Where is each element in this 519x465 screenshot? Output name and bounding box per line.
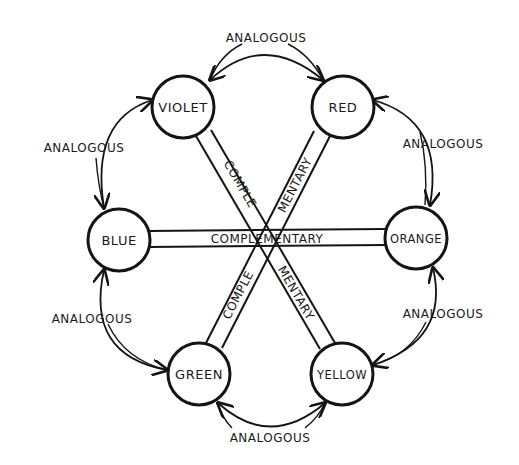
analogous-label-left-lower: ANALOGOUS (52, 312, 133, 326)
node-orange: ORANGE (385, 207, 447, 269)
analogous-arrow-blue-violet: ANALOGOUS (44, 100, 152, 208)
complementary-label-red-green-lower: COMPLE (220, 268, 257, 321)
analogous-arrow-orange-yellow: ANALOGOUS (373, 268, 483, 365)
node-label-orange: ORANGE (390, 232, 442, 246)
analogous-arrow-violet-red: ANALOGOUS (210, 31, 323, 80)
analogous-label-right-lower: ANALOGOUS (403, 307, 484, 321)
node-green: GREEN (168, 343, 230, 405)
node-red: RED (312, 76, 374, 138)
node-label-violet: VIOLET (158, 100, 207, 115)
node-label-red: RED (329, 100, 358, 115)
node-label-yellow: YELLOW (316, 368, 367, 382)
complementary-label-violet-yellow-lower: MENTARY (275, 264, 317, 323)
analogous-arrow-green-blue: ANALOGOUS (52, 270, 167, 370)
color-relationship-diagram: COMPLEMENTARY COMPLE MENTARY MENTARY COM… (0, 0, 519, 465)
analogous-label-top: ANALOGOUS (226, 31, 307, 45)
complementary-label-blue-orange: COMPLEMENTARY (211, 232, 324, 246)
complementary-label-violet-yellow-upper: COMPLE (221, 158, 260, 211)
analogous-arrow-red-orange: ANALOGOUS (373, 100, 483, 205)
node-yellow: YELLOW (311, 343, 373, 405)
analogous-label-bottom: ANALOGOUS (230, 431, 311, 445)
analogous-label-left-upper: ANALOGOUS (44, 141, 125, 155)
analogous-arrow-yellow-green: ANALOGOUS (218, 403, 325, 445)
complementary-bar-blue-orange: COMPLEMENTARY (148, 229, 386, 247)
node-violet: VIOLET (152, 76, 214, 138)
node-label-green: GREEN (175, 367, 223, 382)
node-blue: BLUE (88, 209, 150, 271)
node-label-blue: BLUE (101, 233, 136, 248)
analogous-label-right-upper: ANALOGOUS (403, 137, 484, 151)
